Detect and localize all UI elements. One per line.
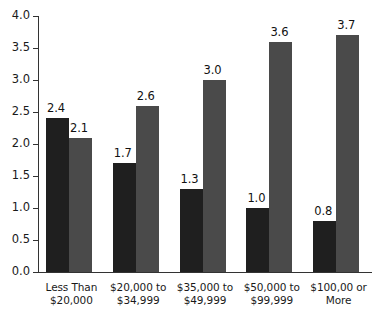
bar-value-label: 3.6 (270, 27, 288, 39)
bar (203, 80, 226, 272)
bar (136, 106, 159, 272)
bar-value-label: 2.4 (47, 103, 65, 115)
bar-value-label: 1.0 (247, 193, 265, 205)
bar (336, 35, 359, 272)
bar (246, 208, 269, 272)
bar-value-label: 2.6 (137, 91, 155, 103)
bar-value-label: 1.7 (114, 148, 132, 160)
x-axis-category-label: $100,00 or More (305, 281, 372, 308)
bar (313, 221, 336, 272)
bar-value-label: 1.3 (181, 174, 199, 186)
bar (269, 42, 292, 272)
bar-value-label: 3.0 (204, 65, 222, 77)
bar (69, 138, 92, 272)
bar-value-label: 0.8 (314, 206, 332, 218)
x-axis-category-label: $50,000 to $99,999 (238, 281, 305, 308)
bar-chart: 0.00.51.01.52.02.53.03.54.0 2.42.11.72.6… (0, 0, 380, 323)
bar-value-label: 2.1 (70, 123, 88, 135)
bar (113, 163, 136, 272)
bar (46, 118, 69, 272)
bar-value-label: 3.7 (337, 20, 355, 32)
bar (180, 189, 203, 272)
plot-area: 2.42.11.72.61.33.01.03.60.83.7 (0, 0, 380, 323)
x-axis-category-label: $35,000 to $49,999 (172, 281, 239, 308)
x-axis-category-label: Less Than $20,000 (38, 281, 105, 308)
x-axis-category-label: $20,000 to $34,999 (105, 281, 172, 308)
